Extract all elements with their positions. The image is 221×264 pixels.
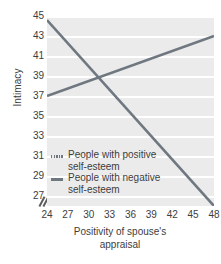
legend-item-negative: People with negative self-esteem <box>51 173 201 196</box>
y-axis-tick-labels: 45434139373533312927 <box>22 14 44 202</box>
chart-figure: Intimacy 45434139373533312927 People wit… <box>0 0 221 264</box>
y-axis-tick-label: 39 <box>22 71 44 81</box>
legend-swatch-dashed-icon <box>51 155 63 158</box>
legend-swatch-solid-icon <box>51 178 63 181</box>
y-axis-tick-label: 31 <box>22 151 44 161</box>
x-axis-tick-labels: 242730333639424548 <box>47 209 214 223</box>
x-axis-tick-label: 48 <box>202 209 221 220</box>
y-axis-tick-label: 29 <box>22 171 44 181</box>
y-axis-tick-label: 45 <box>22 11 44 21</box>
plot-area: People with positive self-esteem People … <box>47 16 214 206</box>
series-line-positive <box>47 36 214 96</box>
legend-label-negative: People with negative self-esteem <box>68 172 160 195</box>
y-axis-tick-label: 33 <box>22 131 44 141</box>
chart-legend: People with positive self-esteem People … <box>51 150 201 196</box>
legend-item-positive: People with positive self-esteem <box>51 150 201 173</box>
y-axis-tick-label: 41 <box>22 51 44 61</box>
y-axis-title: Intimacy <box>12 43 23 133</box>
y-axis-tick-label: 37 <box>22 91 44 101</box>
y-axis-tick-label: 35 <box>22 111 44 121</box>
y-axis-tick-label: 43 <box>22 31 44 41</box>
legend-label-positive: People with positive self-esteem <box>68 149 156 172</box>
x-axis-title: Positivity of spouse's appraisal <box>30 226 210 251</box>
